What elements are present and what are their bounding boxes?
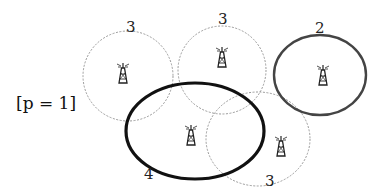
- cell-right-boundary: [274, 35, 366, 115]
- cell-tower-icon: [117, 63, 129, 83]
- cell-tower-icon: [216, 47, 228, 67]
- cell-tower-icon: [317, 65, 329, 85]
- coverage-diagram: 3 3 2 4 3 [p = 1]: [0, 0, 379, 195]
- cell-bottom-right-boundary: [206, 92, 310, 186]
- cell-right-label: 2: [315, 21, 325, 36]
- cell-center-label: 4: [144, 167, 154, 182]
- parameter-label: [p = 1]: [16, 95, 76, 112]
- cell-top-middle-boundary: [178, 26, 266, 114]
- cell-top-left-boundary: [83, 31, 173, 121]
- cell-top-left-label: 3: [126, 20, 136, 35]
- cell-tower-icon: [275, 136, 287, 156]
- cell-tower-icon: [185, 125, 197, 145]
- cell-top-middle-label: 3: [218, 12, 228, 27]
- cell-bottom-right-label: 3: [265, 174, 275, 189]
